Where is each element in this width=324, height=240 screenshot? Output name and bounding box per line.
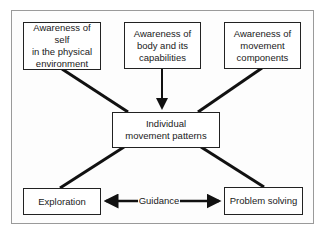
edge-center-to-exploration bbox=[60, 147, 124, 188]
edge-self-to-center bbox=[62, 69, 128, 112]
box-line: Awareness of bbox=[234, 28, 291, 40]
edge-center-to-problem-solving bbox=[201, 147, 264, 187]
box-exploration: Exploration bbox=[23, 188, 101, 215]
box-awareness-self: Awareness of self in the physical enviro… bbox=[23, 22, 101, 70]
box-label: Exploration bbox=[38, 196, 86, 208]
box-line: Awareness of bbox=[134, 28, 191, 40]
box-line: capabilities bbox=[134, 52, 191, 64]
box-line: movement patterns bbox=[125, 130, 206, 142]
box-line: Awareness of self bbox=[26, 22, 98, 46]
box-awareness-movement-components: Awareness of movement components bbox=[224, 22, 301, 69]
box-awareness-body: Awareness of body and its capabilities bbox=[124, 22, 201, 69]
box-line: Individual bbox=[125, 118, 206, 130]
box-line: components bbox=[234, 52, 291, 64]
box-line: body and its bbox=[134, 40, 191, 52]
box-label: Problem solving bbox=[230, 195, 298, 207]
box-line: in the physical bbox=[26, 46, 98, 58]
edge-components-to-center bbox=[198, 68, 262, 112]
box-individual-movement-patterns: Individual movement patterns bbox=[112, 112, 220, 148]
guidance-label: Guidance bbox=[138, 195, 180, 207]
box-line: movement bbox=[234, 40, 291, 52]
box-problem-solving: Problem solving bbox=[224, 187, 303, 215]
box-line: environment bbox=[26, 58, 98, 70]
